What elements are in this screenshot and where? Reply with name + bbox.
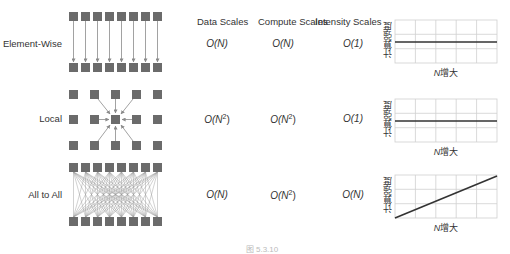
row-label-all-to-all: All to All <box>0 189 62 200</box>
row-label-element-wise: Element-Wise <box>0 38 62 49</box>
intensity-chart-local <box>395 99 497 142</box>
x-axis-label-2: N增大 <box>395 145 497 158</box>
local-pattern <box>69 90 162 150</box>
all-to-all-pattern <box>69 163 162 226</box>
cell-all-to-all-intensity: O(N) <box>318 189 388 200</box>
cell-local-data: O(N2) <box>182 113 252 125</box>
element-wise-pattern <box>69 12 162 72</box>
y-axis-label-2: 计算强度 <box>380 101 393 137</box>
cell-all-to-all-compute: O(N2) <box>248 189 318 201</box>
y-axis-label-3: 计算强度 <box>380 177 393 213</box>
intensity-chart-element-wise <box>395 20 497 63</box>
intensity-chart-all-to-all <box>395 175 497 218</box>
cell-element-wise-data: O(N) <box>182 38 252 49</box>
column-header-intensity-scales: Intensity Scales <box>315 16 382 27</box>
column-header-data-scales: Data Scales <box>197 16 248 27</box>
x-axis-label-3: N增大 <box>395 221 497 234</box>
cell-local-compute: O(N2) <box>248 113 318 125</box>
row-label-local: Local <box>0 113 62 124</box>
cell-local-intensity: O(1) <box>318 113 388 124</box>
y-axis-label-1: 计算强度 <box>380 22 393 58</box>
x-axis-label-1: N增大 <box>395 66 497 79</box>
cell-element-wise-compute: O(N) <box>248 38 318 49</box>
cell-all-to-all-data: O(N) <box>182 189 252 200</box>
cell-element-wise-intensity: O(1) <box>318 38 388 49</box>
figure-caption: 图 5.3.10 <box>222 243 302 254</box>
